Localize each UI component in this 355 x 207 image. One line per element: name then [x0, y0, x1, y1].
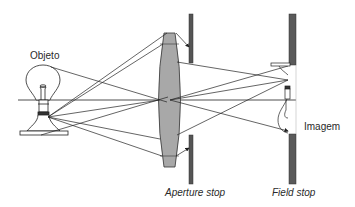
lens	[159, 33, 181, 167]
image-label: Imagem	[304, 122, 340, 132]
aperture-stop-label: Aperture stop	[165, 188, 225, 198]
aperture-stop	[189, 14, 193, 184]
optical-diagram	[0, 0, 355, 207]
object-label: Objeto	[30, 51, 59, 61]
field-stop-label: Field stop	[272, 188, 315, 198]
image-bulb-inverted-icon	[271, 63, 290, 133]
